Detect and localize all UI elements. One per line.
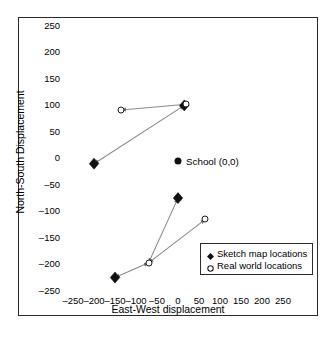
arrow-lower-right	[149, 219, 206, 262]
arrow-lower-left	[115, 263, 149, 278]
y-tick-label-m100: –100	[33, 206, 60, 216]
school-annotation-label: School (0,0)	[186, 156, 239, 167]
y-axis-title: North-South Displacement	[14, 72, 26, 232]
marker-sketch-upper-left	[89, 158, 98, 169]
y-tick-label-150: 150	[36, 74, 60, 84]
scatter-chart-figure: 250 200 150 100 50 0 –50 –100 –150 –200 …	[0, 0, 331, 337]
y-tick-label-250: 250	[36, 21, 60, 31]
y-tick-label-200: 200	[36, 47, 60, 57]
marker-sketch-lower-left	[110, 272, 119, 283]
legend-entry-real: Real world locations	[205, 259, 307, 271]
plot-area: 250 200 150 100 50 0 –50 –100 –150 –200 …	[0, 0, 331, 337]
marker-real-upper-right	[183, 101, 190, 108]
marker-school-origin	[175, 158, 182, 165]
arrow-upper-long	[94, 105, 184, 163]
marker-real-lower-right	[202, 216, 209, 223]
y-tick-label-50: 50	[36, 127, 60, 137]
marker-real-upper-left	[118, 107, 125, 114]
filled-diamond-icon	[205, 248, 216, 259]
marker-real-lower-middle	[145, 259, 152, 266]
y-tick-label-m50: –50	[33, 180, 60, 190]
y-tick-label-m150: –150	[33, 233, 60, 243]
marker-sketch-lower-upper	[173, 193, 182, 204]
arrow-lower-steep	[149, 198, 178, 263]
legend-label-real: Real world locations	[217, 260, 302, 271]
chart-legend: Sketch map locations Real world location…	[200, 243, 313, 275]
legend-entry-sketch: Sketch map locations	[205, 247, 307, 259]
legend-label-sketch: Sketch map locations	[217, 248, 307, 259]
y-tick-label-m200: –200	[33, 259, 60, 269]
open-circle-icon	[205, 260, 216, 271]
arrow-upper-short	[121, 104, 186, 110]
y-tick-label-m250: –250	[33, 286, 60, 296]
y-tick-label-0: 0	[36, 153, 60, 163]
y-tick-label-100: 100	[36, 100, 60, 110]
x-axis-title: East-West displacement	[18, 303, 318, 315]
